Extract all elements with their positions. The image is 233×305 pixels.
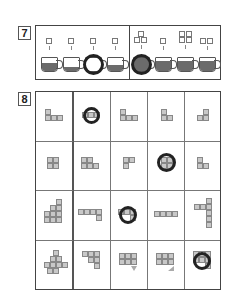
cup-icon	[177, 57, 199, 72]
arrow-down-icon	[71, 46, 72, 50]
cup-icon	[155, 57, 177, 72]
cup-icon	[199, 57, 221, 72]
figure-cell-row-4	[36, 241, 74, 289]
option-cell-row-1-col-4[interactable]	[185, 92, 220, 142]
answer-circle-icon	[157, 153, 176, 172]
option-cell-row-2-col-3[interactable]	[148, 142, 185, 191]
answer-circle-icon	[83, 107, 100, 124]
cup-icon	[107, 57, 129, 72]
arrow-down-icon	[93, 46, 94, 50]
option-cell-row-1-col-1[interactable]	[74, 92, 111, 142]
option-cell-row-2-col-1[interactable]	[74, 142, 111, 191]
sugar-cube-icon	[90, 38, 96, 44]
option-cell-row-3-col-1[interactable]	[74, 191, 111, 241]
figure-cell-row-3	[36, 191, 74, 241]
triangle-shape	[168, 266, 174, 271]
arrow-down-icon	[49, 46, 50, 50]
figure-cell-row-2	[36, 142, 74, 191]
panel-divider	[129, 26, 130, 79]
cup-icon	[63, 57, 85, 72]
question-8-grid	[35, 91, 221, 290]
option-cell-row-1-col-3[interactable]	[148, 92, 185, 142]
option-cell-row-3-col-4[interactable]	[185, 191, 220, 241]
answer-circle-icon	[83, 54, 104, 75]
cup-option-8[interactable]	[199, 38, 221, 74]
sugar-cube-icon	[46, 38, 52, 44]
option-cell-row-4-col-4[interactable]	[185, 241, 220, 289]
option-cell-row-2-col-4[interactable]	[185, 142, 220, 191]
arrow-down-icon	[115, 46, 116, 50]
arrow-down-icon	[185, 45, 186, 49]
question-7-number: 7	[18, 26, 31, 40]
option-cell-row-4-col-2[interactable]	[111, 241, 148, 289]
cup-option-5[interactable]	[133, 31, 155, 74]
option-cell-row-1-col-2[interactable]	[111, 92, 148, 142]
sugar-cube-icon	[160, 38, 166, 44]
sugar-cube-icon	[200, 38, 206, 44]
sugar-cube-icon	[68, 38, 74, 44]
arrow-down-icon	[207, 46, 208, 50]
figure-cell-row-1	[36, 92, 74, 142]
option-cell-row-2-col-2[interactable]	[111, 142, 148, 191]
cup-option-4[interactable]	[107, 38, 129, 74]
option-cell-row-3-col-2[interactable]	[111, 191, 148, 241]
cup-option-2[interactable]	[63, 38, 85, 74]
option-cell-row-3-col-3[interactable]	[148, 191, 185, 241]
sugar-cube-icon	[141, 37, 147, 43]
option-cell-row-4-col-3[interactable]	[148, 241, 185, 289]
cup-option-6[interactable]	[155, 38, 177, 74]
cup-icon	[41, 57, 63, 72]
answer-circle-icon	[131, 54, 152, 75]
sugar-cube-icon	[112, 38, 118, 44]
sugar-cube-icon	[179, 37, 185, 43]
option-cell-row-4-col-1[interactable]	[74, 241, 111, 289]
question-8-number: 8	[18, 92, 31, 106]
arrow-down-icon	[141, 45, 142, 49]
triangle-shape	[131, 266, 137, 271]
question-7-panel	[35, 25, 221, 80]
cup-option-3[interactable]	[85, 38, 107, 74]
sugar-cube-icon	[207, 38, 213, 44]
answer-circle-icon	[119, 206, 137, 224]
answer-circle-icon	[193, 252, 211, 270]
arrow-down-icon	[163, 46, 164, 50]
cup-option-7[interactable]	[177, 31, 199, 74]
cup-option-1[interactable]	[41, 38, 63, 74]
sugar-cube-icon	[186, 37, 192, 43]
sugar-cube-icon	[134, 37, 140, 43]
